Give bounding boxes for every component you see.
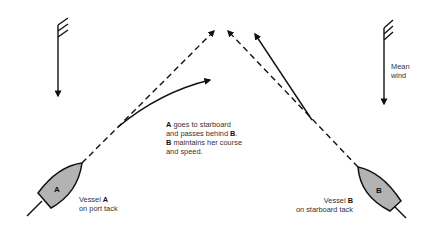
vessel-a-wake xyxy=(27,201,42,216)
vessel-a-caption: Vessel A on port tack xyxy=(79,195,118,213)
vessel-b-icon: B xyxy=(358,167,401,211)
wind-arrow-left-icon xyxy=(58,18,68,96)
explanation-line2: and passes behind B. xyxy=(166,129,242,138)
vessel-b-course-dashed xyxy=(228,31,358,167)
mean-wind-label: Mean wind xyxy=(391,62,410,80)
vessel-b-wake xyxy=(394,206,406,218)
collision-rule-diagram: A B xyxy=(0,0,429,237)
explanation-line3: B maintains her course xyxy=(166,138,242,147)
explanation-line4: and speed. xyxy=(166,147,242,156)
explanation-text: A goes to starboard and passes behind B.… xyxy=(166,120,242,156)
explanation-line1: A goes to starboard xyxy=(166,120,242,129)
mean-wind-line1: Mean xyxy=(391,62,410,71)
vessel-a-icon: A xyxy=(38,163,82,208)
svg-text:A: A xyxy=(54,185,60,194)
mean-wind-line2: wind xyxy=(391,71,410,80)
vessel-b-caption: Vessel B on starboard tack xyxy=(288,196,353,214)
svg-text:B: B xyxy=(376,186,382,195)
vessel-b-course-solid xyxy=(255,34,312,120)
